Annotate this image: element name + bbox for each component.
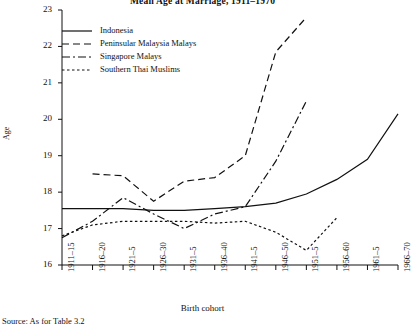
legend-swatches — [58, 24, 258, 84]
source-note: Source: As for Table 3.2 — [2, 316, 85, 326]
series-line-indonesia — [62, 114, 398, 211]
series-line-singapore-malays — [62, 101, 306, 238]
series-line-southern-thai-muslims — [62, 218, 337, 251]
